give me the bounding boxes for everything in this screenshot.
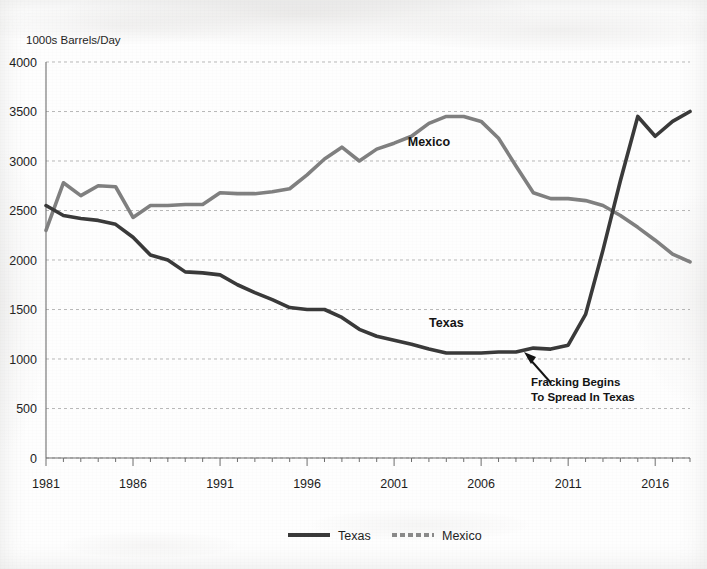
y-axis-tick-label: 4000 [9,56,37,70]
fracking-callout-line1: Fracking Begins [531,376,620,388]
y-axis-title: 1000s Barrels/Day [26,34,121,46]
x-axis-tick-label: 1996 [293,477,321,491]
y-axis-tick-label: 3500 [9,105,37,119]
x-axis-tick-label: 2016 [641,477,669,491]
series-line-mexico [46,116,690,262]
series-line-texas [46,112,690,354]
x-axis-tick-labels: 19811986199119962001200620112016 [32,477,669,491]
legend-label-mexico: Mexico [442,529,482,543]
inline-label-mexico: Mexico [408,135,451,149]
y-axis-tick-label: 1000 [9,353,37,367]
y-axis-tick-label: 2500 [9,204,37,218]
x-axis-tick-label: 1986 [119,477,147,491]
scanned-page: 1000s Barrels/Day 4000350030002500200015… [0,0,707,569]
y-axis-tick-label: 1500 [9,303,37,317]
chart-legend: Texas Mexico [288,529,482,543]
x-axis-tick-label: 2001 [380,477,408,491]
legend-label-texas: Texas [338,529,371,543]
chart-svg: 1000s Barrels/Day 4000350030002500200015… [0,0,707,569]
y-axis-tick-label: 2000 [9,254,37,268]
line-chart-figure: 1000s Barrels/Day 4000350030002500200015… [0,0,707,569]
x-axis-tick-label: 1981 [32,477,60,491]
x-axis-tick-label: 2006 [467,477,495,491]
y-axis-tick-labels: 40003500300025002000150010005000 [9,56,37,466]
inline-label-texas: Texas [429,316,464,330]
y-axis-tick-label: 500 [16,402,37,416]
fracking-callout-line2: To Spread In Texas [531,391,635,403]
x-axis-ticks [46,458,690,466]
x-axis-tick-label: 2011 [555,477,582,491]
x-axis-tick-label: 1991 [206,477,234,491]
y-axis-tick-label: 0 [30,452,37,466]
y-axis-tick-label: 3000 [9,155,37,169]
